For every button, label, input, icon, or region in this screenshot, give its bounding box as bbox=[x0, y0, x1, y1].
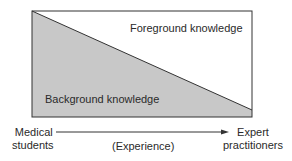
expert-practitioners-label: Expert practitioners bbox=[223, 126, 283, 152]
medical-label: Medical bbox=[14, 126, 54, 139]
experience-label: (Experience) bbox=[112, 140, 174, 153]
foreground-knowledge-label: Foreground knowledge bbox=[130, 22, 243, 35]
expert-label: Expert bbox=[223, 126, 283, 139]
background-knowledge-label: Background knowledge bbox=[45, 93, 159, 106]
medical-students-label: Medical students bbox=[12, 126, 54, 152]
students-label: students bbox=[12, 139, 54, 152]
practitioners-label: practitioners bbox=[223, 139, 283, 152]
